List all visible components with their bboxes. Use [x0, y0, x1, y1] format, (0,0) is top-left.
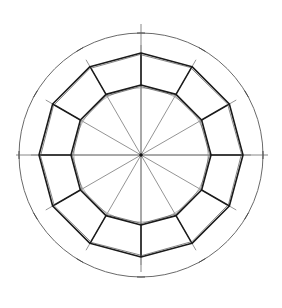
dodecagon-construction-diagram — [0, 0, 282, 308]
axis-lines — [16, 24, 268, 272]
radial-segment — [176, 67, 192, 95]
tick-mark — [33, 213, 37, 220]
center-point — [139, 153, 143, 157]
tick-mark — [245, 213, 249, 220]
tick-mark — [77, 259, 84, 263]
tick-mark — [199, 47, 206, 51]
tick-mark — [245, 91, 249, 98]
radial-segment — [90, 216, 106, 244]
tick-mark — [199, 259, 206, 263]
radial-segment — [176, 216, 192, 244]
radial-segment — [202, 190, 230, 206]
radial-segment — [53, 190, 81, 206]
tick-mark — [33, 91, 37, 98]
tick-mark — [77, 47, 84, 51]
radial-segment — [90, 67, 106, 95]
radial-segment — [202, 104, 230, 120]
center-group — [139, 153, 143, 157]
radial-segment — [53, 104, 81, 120]
